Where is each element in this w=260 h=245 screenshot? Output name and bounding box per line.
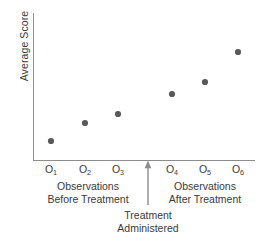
data-point-o1 bbox=[48, 138, 54, 144]
x-tick-label-o2: O2 bbox=[79, 163, 91, 175]
after-treatment-caption-line1: Observations bbox=[169, 180, 241, 193]
data-point-o5 bbox=[202, 79, 208, 85]
chart-figure: Average Score O1 O2 O3 O4 O5 O6 Observat… bbox=[0, 0, 260, 245]
x-tick-label-o3: O3 bbox=[112, 163, 124, 175]
before-treatment-caption-line2: Before Treatment bbox=[47, 193, 128, 206]
x-tick-subscript-o5: 5 bbox=[207, 168, 211, 177]
x-tick-subscript-o1: 1 bbox=[53, 168, 57, 177]
after-treatment-caption-line2: After Treatment bbox=[169, 193, 241, 206]
x-tick-label-o4: O4 bbox=[166, 163, 178, 175]
before-treatment-caption-line1: Observations bbox=[47, 180, 128, 193]
data-point-o4 bbox=[169, 91, 175, 97]
treatment-caption-line1: Treatment bbox=[117, 209, 178, 222]
data-point-o3 bbox=[115, 111, 121, 117]
data-point-o6 bbox=[235, 49, 241, 55]
treatment-administered-caption: Treatment Administered bbox=[117, 209, 178, 234]
treatment-arrow-head bbox=[145, 161, 152, 169]
after-treatment-caption: Observations After Treatment bbox=[169, 180, 241, 205]
x-tick-label-o1: O1 bbox=[45, 163, 57, 175]
x-tick-label-o5: O5 bbox=[199, 163, 211, 175]
y-axis-label: Average Score bbox=[18, 0, 30, 106]
x-tick-subscript-o2: 2 bbox=[87, 168, 91, 177]
x-tick-label-o6: O6 bbox=[232, 163, 244, 175]
x-tick-subscript-o4: 4 bbox=[174, 168, 178, 177]
before-treatment-caption: Observations Before Treatment bbox=[47, 180, 128, 205]
x-tick-subscript-o6: 6 bbox=[240, 168, 244, 177]
data-point-o2 bbox=[82, 120, 88, 126]
x-tick-subscript-o3: 3 bbox=[120, 168, 124, 177]
treatment-caption-line2: Administered bbox=[117, 222, 178, 235]
